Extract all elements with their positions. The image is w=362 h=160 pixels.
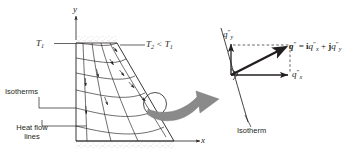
qx-component-label: q″x bbox=[292, 69, 302, 79]
qy-component-label: q″y bbox=[223, 29, 233, 39]
qy-subscript: y bbox=[230, 33, 233, 40]
bottom-boundary-stipple bbox=[76, 141, 174, 149]
isotherms-callout-label: Isotherms bbox=[5, 88, 38, 97]
t2-relation-label: T2 < T1 bbox=[146, 39, 173, 49]
y-axis-label: y bbox=[73, 4, 77, 14]
t2-subscript: 2 bbox=[151, 43, 154, 50]
heat-conduction-figure: y x T1 T2 < T1 Isotherms Heat flow lines… bbox=[0, 0, 362, 160]
t1-label: T1 bbox=[36, 38, 44, 48]
t2-relation-subscript: 1 bbox=[170, 43, 173, 50]
top-boundary-stipple bbox=[76, 36, 117, 43]
equation-qx-subscript: x bbox=[316, 45, 319, 52]
isotherm-curves bbox=[76, 43, 164, 134]
isotherms-leader bbox=[39, 97, 76, 108]
equation-lhs-prime: ″ bbox=[294, 40, 297, 48]
heat-flow-arrowheads bbox=[85, 47, 145, 114]
magnify-curved-arrow bbox=[147, 91, 219, 121]
equation-plus: + bbox=[319, 41, 329, 51]
qx-symbol: q bbox=[292, 69, 297, 79]
x-axis-label: x bbox=[201, 135, 205, 145]
heat-flux-equation: q″ = iq″x + jq″y bbox=[289, 41, 341, 51]
equation-equals: = bbox=[296, 41, 306, 51]
t1-subscript: 1 bbox=[41, 42, 44, 49]
resultant-heat-flux-vector bbox=[231, 47, 286, 75]
equation-qy-subscript: y bbox=[339, 45, 342, 52]
heat-flow-callout-label: Heat flow lines bbox=[4, 124, 60, 141]
heat-flow-curves bbox=[83, 43, 166, 141]
cold-surface-wall bbox=[117, 43, 174, 141]
qy-symbol: q bbox=[223, 29, 228, 39]
equation-lhs: q bbox=[289, 41, 294, 51]
heat-flow-callout-line2: lines bbox=[4, 133, 60, 142]
qx-subscript: x bbox=[299, 73, 302, 80]
t2-relation: < T bbox=[154, 39, 170, 49]
isotherm-detail-label: Isotherm bbox=[237, 127, 266, 136]
